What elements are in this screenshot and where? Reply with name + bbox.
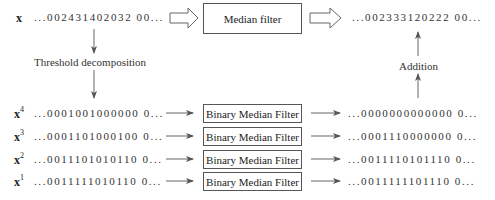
output-sequence: ...002333120222 00...	[352, 11, 482, 23]
binary-median-filter-box: Binary Median Filter	[203, 104, 302, 123]
row-var: x4	[14, 106, 24, 122]
row-output-sequence: ...0011110101110 0...	[348, 153, 476, 165]
input-var-label: x	[16, 11, 22, 26]
median-filter-box: Median filter	[203, 3, 302, 34]
row-input-sequence: ...0001101000100 0...	[34, 130, 163, 142]
row-input-sequence: ...0011101010110 0...	[34, 153, 163, 165]
hollow-arrow-right-icon	[310, 8, 341, 28]
row-input-sequence: ...0011111010110 0...	[34, 175, 162, 187]
input-sequence: ...002431402032 00...	[34, 11, 164, 23]
row-output-sequence: ...0001110000000 0...	[348, 130, 477, 142]
addition-label: Addition	[399, 60, 438, 72]
row-var: x1	[14, 174, 24, 190]
row-output-sequence: ...0011111101110 0...	[348, 175, 475, 187]
binary-median-filter-box: Binary Median Filter	[203, 150, 302, 169]
hollow-arrow-right-icon	[170, 8, 198, 28]
row-var: x3	[14, 129, 24, 145]
binary-median-filter-box: Binary Median Filter	[203, 172, 302, 191]
binary-median-filter-box: Binary Median Filter	[203, 127, 302, 146]
threshold-decomposition-label: Threshold decomposition	[34, 56, 146, 68]
row-var: x2	[14, 152, 24, 168]
row-input-sequence: ...0001001000000 0...	[34, 107, 164, 119]
row-output-sequence: ...0000000000000 0...	[348, 107, 478, 119]
